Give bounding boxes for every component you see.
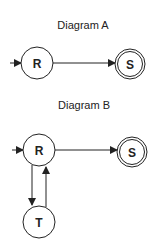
state-r: R bbox=[21, 47, 53, 79]
diagram-a: Diagram A R S bbox=[10, 19, 145, 79]
state-t: T bbox=[23, 206, 55, 238]
state-r: R bbox=[23, 134, 55, 166]
state-s-label: S bbox=[128, 146, 136, 160]
state-r-label: R bbox=[35, 144, 44, 158]
state-t-label: T bbox=[35, 216, 43, 230]
diagram-b-title: Diagram B bbox=[58, 99, 110, 111]
diagrams-canvas: Diagram A R S Diagram B R S bbox=[0, 0, 165, 247]
diagram-b: Diagram B R S T bbox=[12, 99, 147, 238]
state-s-label: S bbox=[126, 58, 134, 72]
state-s-accept: S bbox=[115, 49, 145, 79]
state-s-accept: S bbox=[117, 137, 147, 167]
diagram-a-title: Diagram A bbox=[57, 19, 109, 31]
state-r-label: R bbox=[33, 57, 42, 71]
